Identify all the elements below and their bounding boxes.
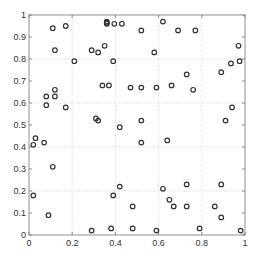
data-point-marker (139, 118, 144, 123)
data-point-marker (169, 83, 174, 88)
y-tick-label: 0.1 (13, 208, 26, 218)
data-point-marker (191, 88, 196, 93)
data-point-marker (219, 182, 224, 187)
data-point-marker (31, 193, 36, 198)
data-point-marker (44, 103, 49, 108)
data-point-marker (50, 26, 55, 31)
data-point-marker (184, 204, 189, 209)
data-point-marker (238, 228, 243, 233)
y-tick-label: 0.8 (13, 54, 26, 64)
data-point-marker (50, 165, 55, 170)
y-tick-label: 0.3 (13, 164, 26, 174)
axes (29, 15, 245, 235)
data-point-marker (230, 105, 235, 110)
data-point-marker (63, 105, 68, 110)
y-tick-label: 0.7 (13, 76, 26, 86)
data-point-marker (89, 228, 94, 233)
data-point-marker (31, 143, 36, 148)
data-point-marker (130, 204, 135, 209)
data-point-marker (223, 118, 228, 123)
grid-lines (29, 15, 245, 235)
data-point-marker (197, 226, 202, 231)
y-tick-label: 0.5 (13, 120, 26, 130)
data-point-marker (219, 70, 224, 75)
data-point-marker (236, 44, 241, 49)
data-point-marker (120, 22, 125, 27)
data-point-marker (117, 125, 122, 130)
data-point-marker (154, 85, 159, 90)
plot-frame (29, 15, 245, 235)
data-point-marker (165, 138, 170, 143)
data-point-marker (229, 61, 234, 66)
x-axis-ticks: 00.20.40.60.81 (26, 15, 247, 248)
data-point-marker (171, 204, 176, 209)
data-point-marker (128, 85, 133, 90)
data-point-marker (176, 28, 181, 33)
y-axis-ticks: 00.10.20.30.40.50.60.70.80.91 (13, 10, 245, 240)
scatter-plot-canvas: 00.20.40.60.81 00.10.20.30.40.50.60.70.8… (0, 0, 259, 261)
data-point-marker (154, 228, 159, 233)
data-point-marker (33, 136, 38, 141)
y-tick-label: 0.2 (13, 186, 26, 196)
data-point-marker (89, 48, 94, 53)
data-point-marker (130, 226, 135, 231)
data-point-marker (139, 28, 144, 33)
data-point-marker (72, 59, 77, 64)
data-point-marker (139, 85, 144, 90)
data-point-marker (167, 198, 172, 203)
data-point-marker (152, 50, 157, 55)
data-point-marker (111, 193, 116, 198)
data-point-marker (53, 48, 58, 53)
x-tick-label: 0.2 (66, 238, 79, 248)
data-point-marker (53, 94, 58, 99)
scatter-chart: 00.20.40.60.81 00.10.20.30.40.50.60.70.8… (0, 0, 259, 261)
data-point-marker (109, 226, 114, 231)
data-point-marker (63, 24, 68, 29)
y-tick-label: 0.6 (13, 98, 26, 108)
data-point-marker (184, 182, 189, 187)
data-point-marker (219, 215, 224, 220)
y-tick-label: 0 (21, 230, 26, 240)
data-point-marker (184, 72, 189, 77)
y-tick-label: 0.9 (13, 32, 26, 42)
data-point-marker (96, 50, 101, 55)
data-point-marker (44, 94, 49, 99)
x-tick-label: 0.4 (109, 238, 122, 248)
data-point-marker (193, 28, 198, 33)
data-point-marker (111, 59, 116, 64)
data-point-marker (107, 83, 112, 88)
data-point-marker (53, 88, 58, 93)
x-tick-label: 0.6 (152, 238, 165, 248)
data-point-marker (237, 59, 242, 64)
data-point-marker (117, 184, 122, 189)
data-points (31, 19, 243, 233)
y-tick-label: 0.4 (13, 142, 26, 152)
data-point-marker (212, 204, 217, 209)
x-tick-label: 0 (26, 238, 31, 248)
data-point-marker (112, 22, 117, 27)
data-point-marker (46, 213, 51, 218)
x-tick-label: 1 (242, 238, 247, 248)
data-point-marker (102, 44, 107, 49)
data-point-marker (139, 140, 144, 145)
data-point-marker (161, 19, 166, 24)
data-point-marker (100, 83, 105, 88)
data-point-marker (161, 187, 166, 192)
y-tick-label: 1 (21, 10, 26, 20)
data-point-marker (42, 140, 47, 145)
x-tick-label: 0.8 (196, 238, 209, 248)
